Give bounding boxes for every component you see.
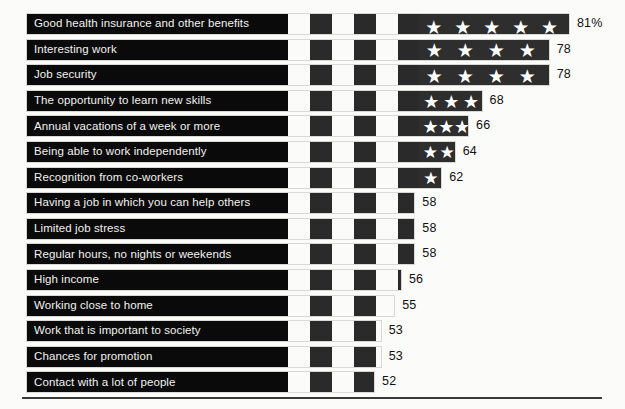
- star-icon: ★: [457, 67, 474, 85]
- flag-stripe: [288, 142, 310, 162]
- flag-stripe: [288, 347, 310, 367]
- bar-category-label: Limited job stress: [27, 223, 125, 235]
- bar-value-label: 52: [382, 374, 396, 388]
- flag-bar: Chances for promotion: [26, 346, 382, 368]
- star-icon: ★: [483, 18, 500, 34]
- flag-stripe: [288, 91, 310, 111]
- flag-stripes: [288, 321, 382, 341]
- flag-stripe: [354, 14, 376, 34]
- flag-bar: ★★★The opportunity to learn new skills: [26, 90, 483, 112]
- flag-stripe: [310, 244, 332, 264]
- flag-star-field: ★: [419, 168, 442, 188]
- flag-stripe: [376, 14, 398, 34]
- flag-bar: ★★★Annual vacations of a week or more: [26, 115, 469, 137]
- bar-row: Limited job stress58: [26, 218, 475, 240]
- bar-value-label: 58: [422, 195, 436, 209]
- bar-label-field: High income: [27, 270, 286, 290]
- bar-label-field: Limited job stress: [27, 219, 286, 239]
- bar-category-label: Working close to home: [27, 300, 153, 312]
- flag-bar: Limited job stress: [26, 218, 415, 240]
- star-icon: ★: [439, 144, 454, 161]
- flag-stripe: [288, 219, 310, 239]
- flag-stripe: [310, 321, 332, 341]
- star-icon: ★: [423, 93, 439, 111]
- flag-stripe: [376, 91, 398, 111]
- flag-stripe: [376, 116, 398, 136]
- footer-divider-rule: [22, 397, 602, 399]
- flag-bar: ★Recognition from co-workers: [26, 167, 442, 189]
- flag-stripe: [332, 14, 354, 34]
- flag-stripe: [354, 116, 376, 136]
- flag-stripe: [398, 142, 420, 162]
- flag-stripe: [354, 372, 375, 392]
- bar-category-label: Recognition from co-workers: [27, 172, 183, 184]
- flag-stripe: [376, 168, 398, 188]
- flag-stripe: [332, 244, 354, 264]
- bar-row: Contact with a lot of people52: [26, 371, 435, 393]
- flag-stripe: [354, 40, 376, 60]
- flag-stripe: [332, 270, 354, 290]
- bar-value-label: 53: [389, 349, 403, 363]
- star-icon: ★: [422, 118, 438, 136]
- flag-stripe: [398, 168, 420, 188]
- flag-bar: Work that is important to society: [26, 320, 382, 342]
- star-icon: ★: [426, 41, 443, 60]
- bar-value-label: 55: [402, 298, 416, 312]
- bar-label-field: Being able to work independently: [27, 142, 286, 162]
- flag-stripe: [376, 219, 398, 239]
- flag-bar: Working close to home: [26, 295, 395, 317]
- flag-bar: ★★★★★Good health insurance and other ben…: [26, 13, 570, 35]
- bar-row: ★★★★★Good health insurance and other ben…: [26, 13, 625, 35]
- bar-label-field: Job security: [27, 65, 286, 85]
- flag-stripes: [288, 270, 402, 290]
- flag-stripe: [354, 296, 376, 316]
- flag-stripe: [310, 65, 332, 85]
- bar-value-label: 78: [557, 67, 571, 81]
- bar-value-label: 78: [557, 42, 571, 56]
- bar-value-label: 58: [422, 246, 436, 260]
- bar-row: ★Recognition from co-workers62: [26, 167, 502, 189]
- bar-label-field: Regular hours, no nights or weekends: [27, 244, 286, 264]
- bar-label-field: Contact with a lot of people: [27, 372, 286, 392]
- flag-stripe: [332, 142, 354, 162]
- flag-stripe: [376, 296, 395, 316]
- flag-bar: Having a job in which you can help other…: [26, 192, 415, 214]
- bar-value-label: 64: [463, 144, 477, 158]
- star-icon: ★: [423, 170, 438, 187]
- flag-stripe: [332, 168, 354, 188]
- bar-value-label: 53: [389, 323, 403, 337]
- flag-stripe: [310, 142, 332, 162]
- flag-stripe: [398, 219, 415, 239]
- flag-bar: ★★★★Interesting work: [26, 39, 550, 61]
- bar-label-field: The opportunity to learn new skills: [27, 91, 286, 111]
- flag-stripe: [288, 40, 310, 60]
- flag-stripe: [398, 244, 415, 264]
- bar-row: High income56: [26, 269, 462, 291]
- flag-bar: Contact with a lot of people: [26, 371, 375, 393]
- flag-stripe: [332, 116, 354, 136]
- flag-stripe: [398, 40, 420, 60]
- bar-value-label: 66: [476, 118, 490, 132]
- star-icon: ★: [454, 118, 469, 136]
- bar-category-label: Contact with a lot of people: [27, 377, 176, 389]
- bar-category-label: Good health insurance and other benefits: [27, 18, 249, 30]
- flag-stripe: [332, 65, 354, 85]
- bar-row: Working close to home55: [26, 295, 455, 317]
- bar-category-label: Annual vacations of a week or more: [27, 121, 220, 133]
- flag-stripe: [354, 65, 376, 85]
- flag-star-field: ★★★★: [419, 65, 550, 85]
- flag-stripe: [354, 193, 376, 213]
- flag-stripe: [310, 270, 332, 290]
- bar-label-field: Recognition from co-workers: [27, 168, 286, 188]
- star-icon: ★: [541, 18, 558, 34]
- flag-star-field: ★★★: [419, 116, 469, 136]
- flag-stripe: [376, 347, 382, 367]
- bar-row: ★★★★Interesting work78: [26, 39, 610, 61]
- star-icon: ★: [488, 41, 505, 60]
- flag-stripe: [398, 270, 402, 290]
- flag-bar: Regular hours, no nights or weekends: [26, 243, 415, 265]
- flag-stripe: [310, 168, 332, 188]
- flag-stripe: [310, 91, 332, 111]
- bar-category-label: Regular hours, no nights or weekends: [27, 249, 231, 261]
- star-icon: ★: [443, 93, 459, 111]
